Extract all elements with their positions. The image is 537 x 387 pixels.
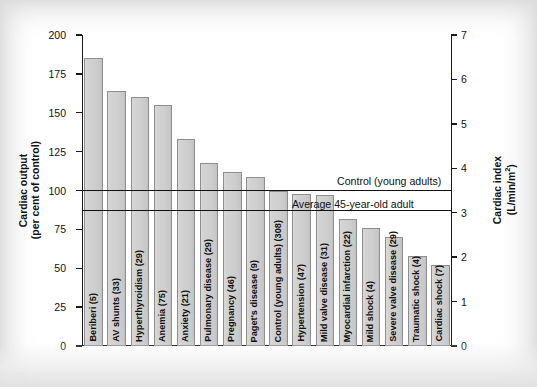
bar: Control (young adults) (308) — [269, 191, 288, 347]
y-tick-label-right: 3 — [461, 207, 467, 218]
bar-category-label: Hyperthyroidism (29) — [135, 250, 144, 342]
bar: Traumatic shock (4) — [408, 256, 427, 346]
bar-category-label: Myocardial infarction (22) — [343, 231, 352, 342]
bar: Beriberi (5) — [84, 58, 103, 346]
right-axis-title-line1: Cardiac index — [492, 156, 503, 224]
bar-category-label: Mild shock (4) — [366, 281, 375, 342]
left-axis-title-line1: Cardiac output — [18, 154, 29, 227]
left-axis-title-line2: (per cent of control) — [30, 141, 41, 239]
reference-line — [82, 210, 452, 212]
y-tick-label-left: 75 — [54, 224, 66, 235]
bar: Mild shock (4) — [362, 228, 381, 346]
y-tick-label-left: 125 — [48, 146, 66, 157]
left-axis-title: Cardiac output (per cent of control) — [18, 35, 42, 346]
right-axis-title-line2: (L/min/m — [506, 173, 517, 216]
right-axis-title-superscript: 2 — [503, 169, 512, 173]
bar: Anxiety (21) — [177, 139, 196, 346]
bar-category-label: Pulmonary disease (29) — [205, 239, 214, 342]
y-tick-label-right: 7 — [461, 30, 467, 41]
y-tick-label-right: 4 — [461, 163, 467, 174]
bar: Hypertension (47) — [292, 194, 311, 346]
y-tick-label-left: 200 — [48, 30, 66, 41]
bar: Cardiac shock (7) — [431, 265, 450, 346]
bar-category-label: Anemia (75) — [158, 290, 167, 342]
bar-category-label: Traumatic shock (4) — [413, 256, 422, 342]
bar: Pregnancy (46) — [223, 172, 242, 346]
bar-category-label: Mild valve disease (31) — [320, 243, 329, 342]
scan-corner-artifact — [4, 373, 26, 385]
bar: Hyperthyroidism (29) — [131, 97, 150, 346]
scanned-figure-page: Cardiac output (per cent of control) Car… — [0, 0, 537, 387]
right-axis-title: Cardiac index (L/min/m2) — [492, 35, 518, 346]
y-tick-label-left: 50 — [54, 263, 66, 274]
y-tick-label-left: 100 — [48, 185, 66, 196]
bar: Mild valve disease (31) — [316, 195, 335, 346]
y-tick-label-left: 25 — [54, 302, 66, 313]
bar: Paget's disease (9) — [246, 177, 265, 346]
bar: Anemia (75) — [154, 105, 173, 346]
bar-category-label: Severe valve disease (29) — [390, 231, 399, 342]
bar: Myocardial infarction (22) — [339, 219, 358, 347]
plot-area: 0255075100125150175200 01234567 Beriberi… — [82, 35, 452, 346]
reference-line — [82, 190, 452, 192]
y-tick-label-right: 1 — [461, 296, 467, 307]
bar-category-label: Control (young adults) (308) — [274, 220, 283, 343]
right-axis-title-close: ) — [506, 165, 517, 168]
bar-category-label: Anxiety (21) — [181, 290, 190, 342]
bar-category-label: Hypertension (47) — [297, 264, 306, 342]
y-tick-label-right: 0 — [461, 341, 467, 352]
reference-line-label: Average 45-year-old adult — [292, 198, 414, 210]
bar: AV shunts (33) — [107, 91, 126, 346]
y-tick-label-right: 5 — [461, 119, 467, 130]
bar: Severe valve disease (29) — [385, 237, 404, 346]
bar-category-label: Beriberi (5) — [89, 293, 98, 342]
bar-category-label: Cardiac shock (7) — [436, 265, 445, 342]
reference-line-label: Control (young adults) — [337, 175, 441, 187]
bar-category-label: AV shunts (33) — [112, 278, 121, 342]
bar-category-label: Pregnancy (46) — [228, 276, 237, 342]
y-tick-label-left: 150 — [48, 108, 66, 119]
y-tick-label-right: 6 — [461, 74, 467, 85]
y-tick-label-right: 2 — [461, 252, 467, 263]
y-tick-label-left: 0 — [60, 341, 66, 352]
y-tick-label-left: 175 — [48, 69, 66, 80]
bar-category-label: Paget's disease (9) — [251, 260, 260, 342]
